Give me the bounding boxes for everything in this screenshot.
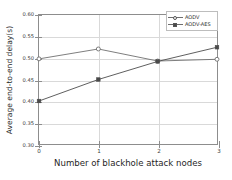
series-line: [39, 49, 217, 61]
x-axis-tick-inner: [219, 141, 220, 144]
x-axis-tick-label: 2: [157, 149, 161, 155]
x-axis-label: Number of blackhole attack nodes: [38, 159, 218, 168]
legend-item-aodv[interactable]: AODV: [168, 14, 215, 21]
series-layer: [39, 15, 217, 144]
y-axis-tick-label: 0.40: [22, 100, 34, 105]
series-aodv-aes: [37, 45, 219, 102]
data-point-marker: [37, 57, 41, 61]
data-point-marker: [215, 57, 219, 61]
y-axis-tick-label: 0.60: [22, 12, 34, 17]
y-axis-label: Average end-to-end delay(s): [5, 14, 16, 145]
legend-label-aodv: AODV: [183, 15, 199, 20]
y-axis-tick-label: 0.50: [22, 56, 34, 61]
legend: AODV AODV-AES: [166, 11, 218, 31]
y-axis-tick-label: 0.35: [22, 122, 34, 127]
data-point-marker: [97, 78, 101, 82]
x-axis-tick-label: 3: [217, 149, 221, 155]
x-axis-tick-label: 0: [37, 149, 41, 155]
data-point-marker: [96, 47, 100, 51]
y-axis-label-text: Average end-to-end delay(s): [7, 25, 15, 134]
y-axis-tick-label: 0.45: [22, 78, 34, 83]
data-point-marker: [156, 60, 160, 64]
legend-marker-filled-square-icon: [168, 21, 183, 28]
chart-figure: Average end-to-end delay(s) 0.300.350.40…: [0, 0, 232, 180]
y-axis-tick-label: 0.30: [22, 143, 34, 148]
legend-marker-open-circle-icon: [168, 14, 183, 21]
data-point-marker: [215, 45, 219, 49]
x-axis-label-text: Number of blackhole attack nodes: [54, 158, 202, 168]
y-axis-tick-label: 0.55: [22, 34, 34, 39]
x-axis-tick-label: 1: [97, 149, 101, 155]
series-aodv: [37, 47, 219, 63]
plot-area: 0.300.350.400.450.500.550.600123: [38, 14, 218, 145]
data-point-marker: [37, 99, 41, 103]
legend-item-aodv-aes[interactable]: AODV-AES: [168, 21, 215, 28]
legend-label-aodv-aes: AODV-AES: [183, 22, 211, 27]
